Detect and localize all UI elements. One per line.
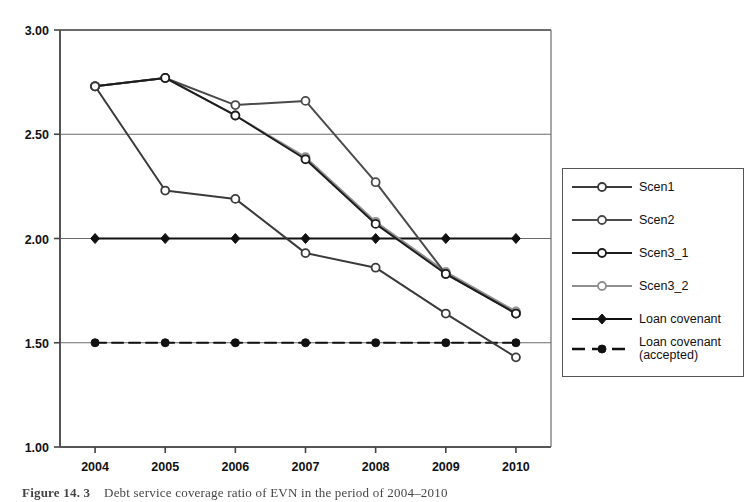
data-point xyxy=(231,195,239,203)
legend-item-scen2[interactable]: Scen2 xyxy=(569,210,674,230)
legend-label: Loan covenant (accepted) xyxy=(639,336,721,362)
data-point xyxy=(372,220,380,228)
chart-legend: Scen1Scen2Scen3_1Scen3_2Loan covenantLoa… xyxy=(562,168,744,377)
data-point xyxy=(512,234,521,244)
series-loan-covenant-accepted xyxy=(91,339,520,347)
series-scen3-1 xyxy=(91,74,520,318)
data-point xyxy=(442,339,450,347)
data-point xyxy=(512,353,520,361)
legend-item-scen3-1[interactable]: Scen3_1 xyxy=(569,243,688,263)
legend-item-scen1[interactable]: Scen1 xyxy=(569,177,674,197)
y-tick-label: 2.00 xyxy=(25,233,49,247)
y-tick-label: 2.50 xyxy=(25,128,49,142)
legend-label: Scen3_1 xyxy=(639,247,688,260)
series-scen1 xyxy=(91,82,520,361)
legend-label: Scen3_2 xyxy=(639,280,688,293)
data-point xyxy=(91,339,99,347)
x-tick-label: 2010 xyxy=(502,460,530,474)
data-point xyxy=(442,270,450,278)
figure-caption: Figure 14. 3 Debt service coverage ratio… xyxy=(22,485,728,501)
data-point xyxy=(91,234,100,244)
data-point xyxy=(161,187,169,195)
data-point xyxy=(512,339,520,347)
data-point xyxy=(598,314,607,324)
x-tick-label: 2007 xyxy=(292,460,320,474)
data-point xyxy=(231,339,239,347)
caption-label: Figure 14. 3 xyxy=(22,485,90,500)
legend-label: Loan covenant xyxy=(639,313,721,326)
data-point xyxy=(371,234,380,244)
data-point xyxy=(231,101,239,109)
x-tick-label: 2005 xyxy=(151,460,179,474)
data-point xyxy=(161,339,169,347)
series-loan-covenant xyxy=(91,234,521,244)
data-point xyxy=(372,178,380,186)
data-point xyxy=(302,97,310,105)
series-line xyxy=(95,78,516,314)
legend-swatch xyxy=(569,279,635,293)
data-point xyxy=(161,234,170,244)
data-point xyxy=(598,345,606,353)
caption-text: Debt service coverage ratio of EVN in th… xyxy=(104,485,448,500)
legend-swatch xyxy=(569,312,635,326)
x-tick-label: 2008 xyxy=(362,460,390,474)
data-point xyxy=(441,234,450,244)
y-tick-label: 1.00 xyxy=(25,441,49,455)
legend-swatch xyxy=(569,213,635,227)
data-point xyxy=(442,310,450,318)
data-point xyxy=(372,264,380,272)
series-scen2 xyxy=(91,74,520,318)
data-point xyxy=(161,74,169,82)
legend-item-loan-covenant-accepted[interactable]: Loan covenant (accepted) xyxy=(569,339,721,359)
y-tick-label: 3.00 xyxy=(25,24,49,38)
data-point xyxy=(598,249,606,257)
legend-label: Scen1 xyxy=(639,181,674,194)
data-point xyxy=(512,310,520,318)
legend-label: Scen2 xyxy=(639,214,674,227)
y-tick-label: 1.50 xyxy=(25,337,49,351)
series-line xyxy=(95,86,516,357)
figure-container: 1.001.502.002.503.0020042005200620072008… xyxy=(0,0,748,502)
data-point xyxy=(302,249,310,257)
data-point xyxy=(598,183,606,191)
legend-swatch xyxy=(569,246,635,260)
data-point xyxy=(302,339,310,347)
data-point xyxy=(231,234,240,244)
x-tick-label: 2006 xyxy=(221,460,249,474)
series-line xyxy=(95,78,516,312)
data-point xyxy=(598,282,606,290)
x-tick-label: 2009 xyxy=(432,460,460,474)
legend-swatch xyxy=(569,180,635,194)
data-point xyxy=(302,155,310,163)
data-point xyxy=(91,82,99,90)
legend-item-scen3-2[interactable]: Scen3_2 xyxy=(569,276,688,296)
legend-item-loan-covenant[interactable]: Loan covenant xyxy=(569,309,721,329)
x-tick-label: 2004 xyxy=(81,460,109,474)
legend-swatch xyxy=(569,342,635,356)
data-point xyxy=(372,339,380,347)
data-point xyxy=(231,111,239,119)
data-point xyxy=(301,234,310,244)
data-point xyxy=(598,216,606,224)
